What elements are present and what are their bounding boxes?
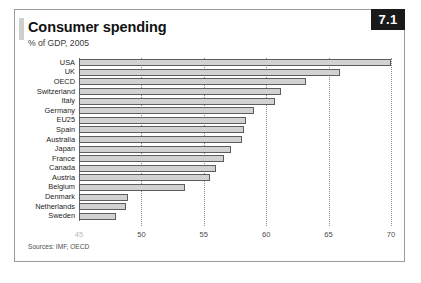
bar-row bbox=[79, 146, 231, 153]
bar bbox=[79, 78, 306, 85]
bar-row bbox=[79, 107, 254, 114]
bar bbox=[79, 194, 128, 201]
bar-row bbox=[79, 165, 216, 172]
bar bbox=[79, 126, 244, 133]
value-axis-tick-label: 65 bbox=[324, 230, 332, 239]
bar-row bbox=[79, 88, 281, 95]
category-label: Canada bbox=[49, 164, 75, 172]
chart-number-badge: 7.1 bbox=[371, 9, 405, 30]
value-axis-tick-label: 50 bbox=[137, 230, 145, 239]
bar-row bbox=[79, 155, 224, 162]
bar-row bbox=[79, 136, 242, 143]
bar bbox=[79, 98, 275, 105]
category-label: Spain bbox=[56, 126, 75, 134]
bar-row bbox=[79, 194, 128, 201]
category-label: Germany bbox=[45, 107, 75, 115]
bar bbox=[79, 69, 340, 76]
category-label: Japan bbox=[55, 145, 75, 153]
chart-title: Consumer spending bbox=[28, 19, 166, 35]
category-label: Australia bbox=[46, 136, 75, 144]
bar-row bbox=[79, 174, 210, 181]
bar-row bbox=[79, 98, 275, 105]
gridline bbox=[329, 58, 330, 226]
bar bbox=[79, 165, 216, 172]
bar bbox=[79, 213, 116, 220]
figure-page: 7.1 Consumer spending % of GDP, 2005 USA… bbox=[0, 0, 421, 283]
bar bbox=[79, 107, 254, 114]
category-label: EU25 bbox=[57, 116, 76, 124]
sources-note: Sources: IMF, OECD bbox=[28, 243, 89, 250]
bar-row bbox=[79, 69, 340, 76]
chart-subtitle: % of GDP, 2005 bbox=[28, 38, 89, 48]
category-label: Belgium bbox=[48, 183, 75, 191]
category-label: France bbox=[52, 155, 75, 163]
category-axis-labels: USAUKOECDSwitzerlandItalyGermanyEU25Spai… bbox=[15, 58, 78, 221]
category-label: Netherlands bbox=[35, 203, 75, 211]
value-axis-tick-label: 70 bbox=[387, 230, 395, 239]
category-label: USA bbox=[60, 59, 75, 67]
bar-row bbox=[79, 59, 391, 66]
title-accent-bar bbox=[19, 18, 24, 40]
bar-row bbox=[79, 117, 246, 124]
bar-row bbox=[79, 203, 126, 210]
bar bbox=[79, 117, 246, 124]
bar bbox=[79, 136, 242, 143]
bar bbox=[79, 174, 210, 181]
bar-row bbox=[79, 126, 244, 133]
figure-card: 7.1 Consumer spending % of GDP, 2005 USA… bbox=[14, 9, 405, 262]
category-label: OECD bbox=[54, 78, 75, 86]
bar bbox=[79, 184, 185, 191]
bar bbox=[79, 59, 391, 66]
bar-row bbox=[79, 213, 116, 220]
category-label: Denmark bbox=[45, 193, 75, 201]
bar bbox=[79, 155, 224, 162]
bar-row bbox=[79, 78, 306, 85]
value-axis-tick-label: 45 bbox=[75, 230, 83, 239]
bar bbox=[79, 146, 231, 153]
gridline bbox=[391, 58, 392, 226]
bar-row bbox=[79, 184, 185, 191]
category-label: Sweden bbox=[48, 212, 75, 220]
plot-area: 455055606570 bbox=[79, 58, 391, 221]
category-label: Italy bbox=[61, 97, 75, 105]
value-axis-tick-label: 55 bbox=[200, 230, 208, 239]
category-label: UK bbox=[65, 68, 75, 76]
bar bbox=[79, 88, 281, 95]
category-label: Austria bbox=[52, 174, 75, 182]
value-axis-tick-label: 60 bbox=[262, 230, 270, 239]
category-label: Switzerland bbox=[37, 88, 75, 96]
bar bbox=[79, 203, 126, 210]
